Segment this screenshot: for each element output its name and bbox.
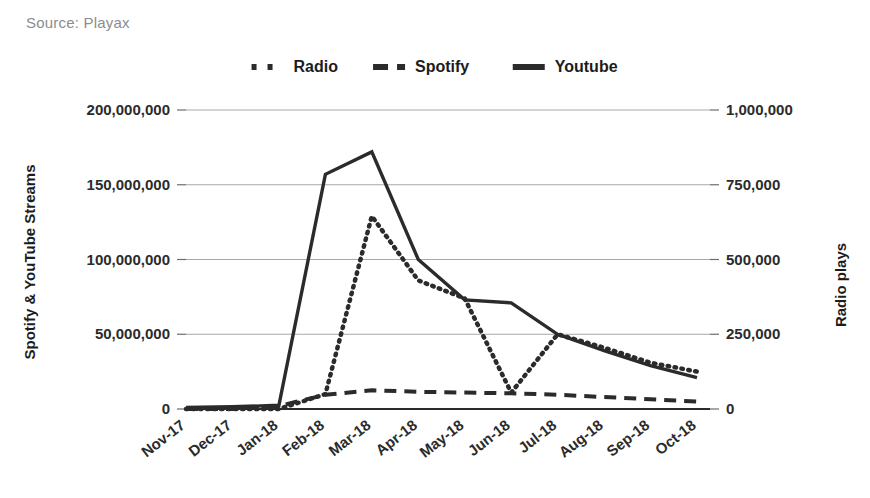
- x-tick-label: Sep-18: [603, 416, 652, 460]
- series-line-radio: [186, 216, 697, 409]
- x-tick-label: Dec-17: [185, 416, 234, 460]
- y-axis-title: Spotify & YouTube Streams: [21, 164, 38, 359]
- x-tick-label: Apr-18: [372, 416, 420, 459]
- right-tick-label: 500,000: [726, 251, 780, 268]
- chart-legend: RadioSpotifyYoutube: [252, 58, 618, 75]
- x-tick-label: Nov-17: [138, 416, 188, 460]
- x-axis-tick-labels: Nov-17Dec-17Jan-18Feb-18Mar-18Apr-18May-…: [138, 416, 699, 461]
- legend-label: Radio: [294, 58, 339, 75]
- x-tick-label: Jul-18: [515, 416, 560, 456]
- x-tick-label: May-18: [416, 416, 467, 461]
- series-lines: [186, 152, 697, 409]
- x-tick-label: Jan-18: [233, 416, 281, 459]
- left-tick-label: 0: [162, 400, 170, 417]
- y2-axis-title: Radio plays: [832, 243, 849, 327]
- right-axis-ticks: [710, 110, 719, 409]
- x-tick-label: Mar-18: [325, 416, 374, 459]
- right-tick-label: 250,000: [726, 325, 780, 342]
- chart-canvas: 050,000,000100,000,000150,000,000200,000…: [0, 0, 870, 498]
- legend-item-youtube[interactable]: Youtube: [513, 58, 618, 75]
- left-tick-label: 100,000,000: [87, 251, 170, 268]
- left-tick-label: 150,000,000: [87, 176, 170, 193]
- line-chart: 050,000,000100,000,000150,000,000200,000…: [0, 0, 870, 498]
- right-tick-label: 750,000: [726, 176, 780, 193]
- legend-item-radio[interactable]: Radio: [252, 58, 339, 75]
- left-axis-tick-labels: 050,000,000100,000,000150,000,000200,000…: [87, 101, 170, 417]
- right-axis-tick-labels: 0250,000500,000750,0001,000,000: [726, 101, 793, 417]
- x-tick-label: Aug-18: [555, 416, 606, 461]
- x-tick-label: Jun-18: [464, 416, 513, 459]
- gridlines: [186, 110, 710, 409]
- left-tick-label: 50,000,000: [95, 325, 170, 342]
- legend-label: Youtube: [555, 58, 618, 75]
- legend-label: Spotify: [415, 58, 469, 75]
- legend-item-spotify[interactable]: Spotify: [373, 58, 469, 75]
- right-tick-label: 1,000,000: [726, 101, 793, 118]
- x-tick-label: Oct-18: [652, 416, 699, 458]
- right-tick-label: 0: [726, 400, 734, 417]
- x-tick-label: Feb-18: [279, 416, 328, 459]
- series-line-youtube: [186, 152, 697, 408]
- left-tick-label: 200,000,000: [87, 101, 170, 118]
- left-axis-ticks: [177, 110, 186, 409]
